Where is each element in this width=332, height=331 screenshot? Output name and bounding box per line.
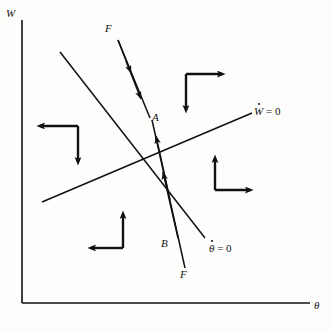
quadrant-arrows-lower-right [215,158,250,190]
w-dot-nullcline-equals: = 0 [263,105,280,117]
incoming-upper-trajectory-line [118,40,150,118]
y-axis-label: W [6,8,15,19]
lower-trajectory-label-b: B [161,238,168,249]
w-dot-nullcline-label: W = 0 [254,106,280,117]
x-axis-label: θ [314,300,319,311]
incoming-lower-trajectory-line [152,120,185,268]
quadrant-arrows-upper-left [40,126,78,162]
theta-dot-nullcline-line [60,52,205,238]
w-dot-nullcline-variable: W [254,105,263,117]
equilibrium-point-label: A [152,112,159,123]
quadrant-arrows-lower-left [91,214,123,248]
theta-dot-nullcline-variable: θ [209,242,214,254]
quadrant-arrows-upper-right [186,74,222,110]
phase-plane-canvas [0,0,332,331]
overdot-icon [258,103,260,105]
theta-dot-nullcline-label: θ = 0 [209,243,232,254]
theta-dot-nullcline-equals: = 0 [214,242,231,254]
upper-trajectory-label: F [105,23,112,34]
overdot-icon [211,240,213,242]
lower-trajectory-label-f: F [180,269,187,280]
phase-plane-figure: W θ A W = 0 θ = 0 F B F [0,0,332,331]
axis-lines [22,20,310,303]
